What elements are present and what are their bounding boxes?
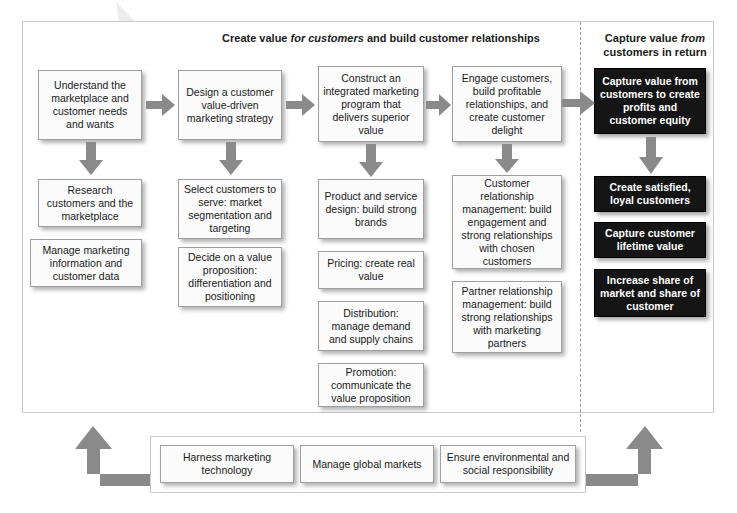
header-left-line1: Create value for customers and (222, 32, 386, 44)
box-pricing[interactable]: Pricing: create real value (318, 251, 424, 289)
box-value-proposition[interactable]: Decide on a value proposition: different… (178, 247, 282, 307)
arrow-right-1-icon (146, 93, 176, 117)
box-partner-relationship-management[interactable]: Partner relationship management: build s… (452, 281, 562, 353)
box-harness-technology[interactable]: Harness marketing technology (160, 445, 294, 483)
arrow-right-2-icon (286, 93, 316, 117)
arrow-feedback-left-icon (72, 424, 154, 496)
arrow-down-col3-icon (358, 144, 384, 178)
section-divider (580, 22, 581, 432)
arrow-down-col2-icon (218, 142, 244, 176)
box-create-satisfied-customers[interactable]: Create satisfied, loyal customers (594, 176, 706, 212)
box-distribution[interactable]: Distribution: manage demand and supply c… (318, 301, 424, 351)
header-left-line2: build customer relationships (390, 32, 540, 44)
box-select-customers[interactable]: Select customers to serve: market segmen… (178, 179, 282, 239)
box-customer-relationship-management[interactable]: Customer relationship management: build … (452, 175, 562, 269)
arrow-down-col4-icon (494, 144, 520, 174)
box-manage-marketing-information[interactable]: Manage marketing information and custome… (30, 239, 142, 287)
box-construct-program[interactable]: Construct an integrated marketing progra… (318, 66, 424, 142)
box-design-strategy[interactable]: Design a customer value-driven marketing… (178, 70, 282, 140)
arrow-feedback-right-icon (584, 424, 666, 496)
header-capture-value: Capture value from customers in return (588, 31, 722, 59)
box-understand-marketplace[interactable]: Understand the marketplace and customer … (38, 70, 142, 140)
box-engage-customers[interactable]: Engage customers, build profitable relat… (452, 66, 562, 142)
box-product-service-design[interactable]: Product and service design: build strong… (318, 179, 424, 239)
arrow-right-4-icon (562, 90, 596, 116)
header-create-value: Create value for customers and build cus… (190, 31, 572, 45)
box-manage-global-markets[interactable]: Manage global markets (300, 445, 434, 483)
box-capture-value[interactable]: Capture value from customers to create p… (594, 68, 706, 134)
diagram-canvas: Create value for customers and build cus… (0, 0, 737, 513)
box-capture-lifetime-value[interactable]: Capture customer lifetime value (594, 222, 706, 258)
arrow-right-3-icon (426, 93, 452, 117)
arrow-down-col1-icon (78, 142, 104, 176)
header-right-line1: Capture value from (605, 32, 705, 44)
box-social-responsibility[interactable]: Ensure environmental and social responsi… (440, 445, 576, 483)
header-right-line2: customers in return (603, 46, 706, 58)
box-promotion[interactable]: Promotion: communicate the value proposi… (318, 363, 424, 407)
arrow-down-col5-icon (638, 137, 664, 175)
box-increase-share[interactable]: Increase share of market and share of cu… (594, 269, 706, 317)
box-research-customers[interactable]: Research customers and the marketplace (38, 179, 142, 227)
